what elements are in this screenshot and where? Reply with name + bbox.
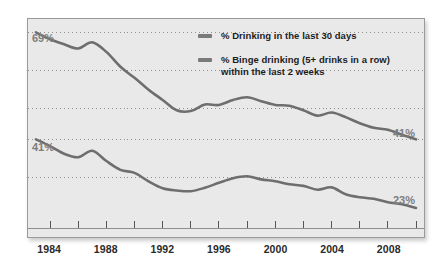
series-line-1 xyxy=(36,139,416,208)
x-axis-tick-label: 2004 xyxy=(320,243,344,255)
legend-item-binge-drinking: % Binge drinking (5+ drinks in a row) wi… xyxy=(198,54,413,79)
x-axis-tick-label: 1992 xyxy=(150,243,174,255)
legend-swatch-icon xyxy=(198,58,212,62)
label-start-lower: 41% xyxy=(32,141,54,153)
legend-item-drinking-30-days: % Drinking in the last 30 days xyxy=(198,30,413,43)
x-axis-tick-label: 2000 xyxy=(264,243,288,255)
chart-page: 69% 41% 41% 23% % Drinking in the last 3… xyxy=(0,0,444,266)
x-axis-tick-label: 1996 xyxy=(207,243,231,255)
x-axis-tick-label: 1988 xyxy=(94,243,118,255)
x-axis-ticks-group xyxy=(28,221,424,228)
chart-legend: % Drinking in the last 30 days % Binge d… xyxy=(198,30,413,90)
legend-label: % Binge drinking (5+ drinks in a row) wi… xyxy=(221,54,413,79)
label-start-upper: 69% xyxy=(32,32,54,44)
label-end-upper: 41% xyxy=(393,127,415,139)
legend-label: % Drinking in the last 30 days xyxy=(221,30,357,43)
x-axis-tick-label: 2008 xyxy=(377,243,401,255)
x-axis-tick-label: 1984 xyxy=(37,243,61,255)
legend-swatch-icon xyxy=(198,34,212,38)
label-end-lower: 23% xyxy=(393,194,415,206)
